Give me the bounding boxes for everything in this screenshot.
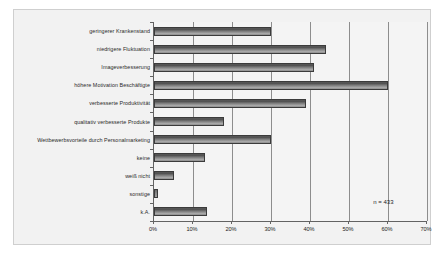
category-label: Wettbewerbsvorteile durch Personalmarket… [37,131,150,149]
bar [154,81,388,90]
bar [154,27,271,36]
x-axis-tick-0 [153,221,154,224]
x-axis-tick-10 [192,221,193,224]
x-axis-tick-label: 60% [381,226,392,232]
chart-frame: geringerer Krankenstandniedrigere Fluktu… [13,9,431,245]
chart-figure: geringerer Krankenstandniedrigere Fluktu… [0,0,444,254]
bar [154,189,158,198]
y-axis-tick [150,185,153,186]
y-axis-tick [150,167,153,168]
category-label: qualitativ verbesserte Produkte [74,113,150,131]
gridline-50 [349,22,350,221]
x-axis-tick-label: 20% [225,226,236,232]
x-axis-tick-label: 30% [264,226,275,232]
x-axis-tick-50 [348,221,349,224]
category-label: keine [137,149,150,167]
x-axis-tick-label: 70% [420,226,431,232]
category-label: niedrigere Fluktuation [97,40,150,58]
category-axis-labels: geringerer Krankenstandniedrigere Fluktu… [14,22,153,221]
bar [154,45,326,54]
x-axis-line [153,221,427,222]
category-label: Imageverbesserung [101,58,150,76]
y-axis-tick [150,76,153,77]
x-axis-tick-label: 10% [186,226,197,232]
category-label: sonstige [129,185,150,203]
bar [154,135,271,144]
sample-size-annotation: n = 433 [373,199,393,205]
bar [154,171,174,180]
y-axis-tick [150,22,153,23]
category-label: geringerer Krankenstand [89,22,150,40]
x-axis-tick-label: 40% [303,226,314,232]
y-axis-tick [150,149,153,150]
x-axis-tick-60 [387,221,388,224]
y-axis-tick [150,94,153,95]
y-axis-tick [150,112,153,113]
bar [154,99,306,108]
y-axis-tick [150,58,153,59]
y-axis-tick [150,203,153,204]
x-axis-tick-label: 0% [149,226,157,232]
gridline-60 [388,22,389,221]
category-label: weiß nicht [125,167,150,185]
category-label: höhere Motivation Beschäftigte [74,76,150,94]
bar [154,153,205,162]
bar [154,117,224,126]
plot-area [153,22,427,221]
gridline-70 [427,22,428,221]
chart-plot-area-wrapper: geringerer Krankenstandniedrigere Fluktu… [14,10,430,244]
category-label: verbesserte Produktivität [89,94,150,112]
x-axis-tick-20 [231,221,232,224]
category-label: k.A. [140,203,150,221]
x-axis-tick-40 [309,221,310,224]
y-axis-tick [150,131,153,132]
x-axis-tick-70 [426,221,427,224]
bar [154,63,314,72]
x-axis-tick-label: 50% [342,226,353,232]
y-axis-tick [150,221,153,222]
bar [154,207,207,216]
y-axis-tick [150,40,153,41]
x-axis-tick-30 [270,221,271,224]
